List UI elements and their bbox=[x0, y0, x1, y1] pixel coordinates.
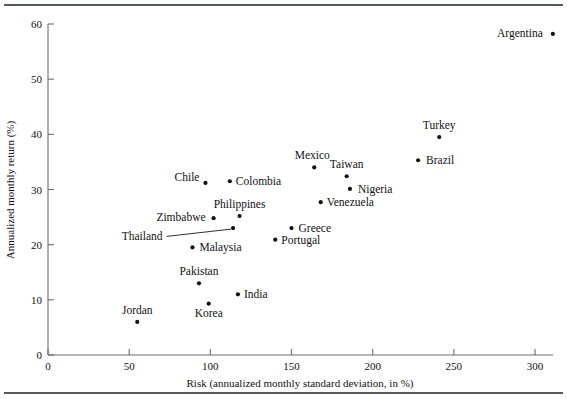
point-label-portugal: Portugal bbox=[281, 234, 320, 247]
data-point bbox=[348, 187, 352, 191]
point-label-argentina: Argentina bbox=[497, 27, 543, 40]
data-point bbox=[416, 158, 420, 162]
point-label-zimbabwe: Zimbabwe bbox=[156, 211, 205, 223]
point-label-nigeria: Nigeria bbox=[358, 183, 392, 196]
x-axis-ticks: 050100150200250300 bbox=[45, 349, 544, 372]
x-tick-label: 50 bbox=[124, 360, 136, 372]
point-label-venezuela: Venezuela bbox=[327, 196, 374, 208]
y-tick-label: 50 bbox=[31, 73, 43, 85]
figure-container: 0102030405060 050100150200250300 Annuali… bbox=[0, 0, 567, 399]
data-point bbox=[437, 135, 441, 139]
point-label-brazil: Brazil bbox=[426, 154, 454, 166]
data-point bbox=[228, 179, 232, 183]
point-label-colombia: Colombia bbox=[236, 175, 281, 187]
y-axis-title: Annualized monthly return (%) bbox=[4, 120, 17, 259]
point-label-greece: Greece bbox=[299, 222, 332, 234]
point-label-india: India bbox=[244, 288, 268, 300]
data-point bbox=[319, 200, 323, 204]
point-label-pakistan: Pakistan bbox=[179, 265, 218, 277]
data-point-labels-group: ArgentinaTurkeyBrazilTaiwanMexicoNigeria… bbox=[122, 27, 543, 319]
data-point bbox=[211, 216, 215, 220]
data-point bbox=[231, 226, 235, 230]
x-tick-label: 300 bbox=[527, 360, 544, 372]
y-axis-ticks: 0102030405060 bbox=[31, 18, 54, 361]
data-point bbox=[289, 226, 293, 230]
scatter-plot: 0102030405060 050100150200250300 Annuali… bbox=[0, 0, 567, 399]
point-label-philippines: Philippines bbox=[214, 198, 266, 211]
y-tick-label: 30 bbox=[31, 184, 43, 196]
y-tick-label: 40 bbox=[31, 128, 43, 140]
y-tick-label: 0 bbox=[37, 349, 43, 361]
x-tick-label: 200 bbox=[364, 360, 381, 372]
x-tick-label: 150 bbox=[283, 360, 300, 372]
leader-lines-group bbox=[167, 229, 232, 236]
data-point bbox=[190, 245, 194, 249]
x-tick-label: 0 bbox=[45, 360, 51, 372]
data-point bbox=[345, 174, 349, 178]
y-tick-label: 10 bbox=[31, 294, 43, 306]
data-point bbox=[135, 320, 139, 324]
y-tick-label: 60 bbox=[31, 18, 43, 30]
data-point bbox=[203, 181, 207, 185]
x-tick-label: 250 bbox=[446, 360, 463, 372]
point-label-taiwan: Taiwan bbox=[330, 158, 364, 170]
y-tick-label: 20 bbox=[31, 239, 43, 251]
leader-line-thailand bbox=[167, 229, 232, 236]
point-label-mexico: Mexico bbox=[295, 149, 330, 161]
point-label-thailand: Thailand bbox=[122, 230, 163, 242]
point-label-jordan: Jordan bbox=[122, 304, 153, 316]
data-point bbox=[312, 165, 316, 169]
point-label-turkey: Turkey bbox=[423, 119, 456, 132]
data-point bbox=[197, 281, 201, 285]
point-label-korea: Korea bbox=[195, 307, 223, 319]
point-label-malaysia: Malaysia bbox=[199, 241, 241, 254]
point-label-chile: Chile bbox=[175, 171, 200, 183]
data-point bbox=[551, 32, 555, 36]
data-point bbox=[236, 292, 240, 296]
data-point bbox=[273, 238, 277, 242]
data-point bbox=[207, 302, 211, 306]
data-point bbox=[237, 214, 241, 218]
x-axis-title: Risk (annualized monthly standard deviat… bbox=[187, 377, 414, 390]
x-tick-label: 100 bbox=[202, 360, 219, 372]
